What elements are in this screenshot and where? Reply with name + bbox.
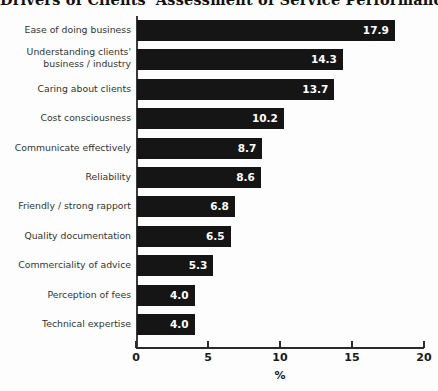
bar-value-label: 13.7 <box>302 79 328 100</box>
x-axis-tick <box>135 341 137 348</box>
category-label: Friendly / strong rapport <box>0 201 131 212</box>
category-label: Communicate effectively <box>0 143 131 154</box>
bar-row: Cost consciousness10.2 <box>0 108 438 129</box>
category-label: Reliability <box>0 172 131 183</box>
category-label: Perception of fees <box>0 290 131 301</box>
x-axis-tick <box>423 341 425 348</box>
category-label: Understanding clients' business / indust… <box>0 46 131 69</box>
x-axis-tick <box>279 341 281 348</box>
x-axis-tick <box>351 341 353 348</box>
bar-value-label: 10.2 <box>252 108 278 129</box>
bar-value-label: 6.5 <box>199 226 225 247</box>
chart-root: Drivers of Clients' Assessment of Servic… <box>0 0 438 391</box>
bar-value-label: 6.8 <box>203 196 229 217</box>
bar-row: Commerciality of advice5.3 <box>0 255 438 276</box>
bar-value-label: 17.9 <box>363 20 389 41</box>
plot-area: % 05101520Ease of doing business17.9Unde… <box>0 0 438 391</box>
category-label: Commerciality of advice <box>0 260 131 271</box>
bar-row: Technical expertise4.0 <box>0 314 438 335</box>
bar-value-label: 8.7 <box>230 138 256 159</box>
bar-row: Understanding clients' business / indust… <box>0 49 438 70</box>
bar-row: Quality documentation6.5 <box>0 226 438 247</box>
bar-value-label: 14.3 <box>311 49 337 70</box>
x-axis-title: % <box>274 369 285 382</box>
category-label: Quality documentation <box>0 231 131 242</box>
category-label: Technical expertise <box>0 319 131 330</box>
x-axis-tick <box>207 341 209 348</box>
bar-row: Ease of doing business17.9 <box>0 20 438 41</box>
bar-row: Perception of fees4.0 <box>0 285 438 306</box>
bar-value-label: 4.0 <box>163 314 189 335</box>
bar-row: Friendly / strong rapport6.8 <box>0 196 438 217</box>
bar-value-label: 4.0 <box>163 285 189 306</box>
bar <box>137 20 395 41</box>
bar-value-label: 8.6 <box>229 167 255 188</box>
category-label: Caring about clients <box>0 84 131 95</box>
x-axis-tick-label: 0 <box>132 351 140 364</box>
bar-value-label: 5.3 <box>181 255 207 276</box>
x-axis-tick-label: 10 <box>272 351 287 364</box>
bar-row: Communicate effectively8.7 <box>0 138 438 159</box>
bar-row: Caring about clients13.7 <box>0 79 438 100</box>
category-label: Cost consciousness <box>0 113 131 124</box>
x-axis-tick-label: 5 <box>204 351 212 364</box>
x-axis-tick-label: 15 <box>344 351 359 364</box>
category-label: Ease of doing business <box>0 25 131 36</box>
bar-row: Reliability8.6 <box>0 167 438 188</box>
x-axis-tick-label: 20 <box>416 351 431 364</box>
